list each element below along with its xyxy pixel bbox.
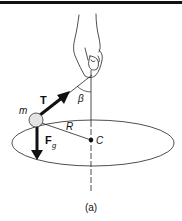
top-rule [0,1,182,4]
hand-icon [74,14,103,78]
center-point [89,138,94,143]
gravity-label-subscript: g [52,141,57,150]
conical-pendulum-diagram: β R C T F g m (a) [0,0,182,221]
mass-label: m [19,105,27,116]
radius-label: R [66,121,73,132]
tension-label: T [40,94,47,106]
figure-caption: (a) [85,202,97,213]
pendulum-bob [29,113,43,127]
angle-label: β [77,93,84,104]
center-label: C [96,135,104,146]
gravity-label: F [45,134,52,146]
angle-arc [77,86,91,92]
